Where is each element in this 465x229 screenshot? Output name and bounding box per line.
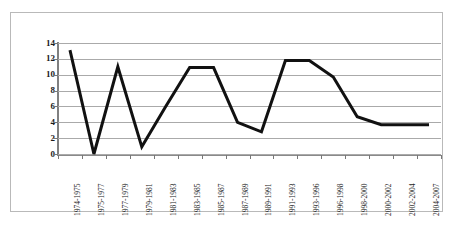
y-tick-label: 2 bbox=[33, 134, 55, 143]
x-tick-label: 1983-1985 bbox=[193, 184, 202, 217]
x-tick-label: 2002-2004 bbox=[408, 184, 417, 217]
x-tick-label: 1993-1996 bbox=[312, 184, 321, 217]
y-tick-label: 4 bbox=[33, 118, 55, 127]
x-tick-mark bbox=[250, 155, 251, 159]
x-axis-tick-labels: 1974-19751975-19771977-19791979-19811981… bbox=[58, 160, 441, 222]
x-tick-mark bbox=[226, 155, 227, 159]
y-tick-mark bbox=[53, 91, 58, 92]
x-tick-label: 1991-1993 bbox=[288, 184, 297, 217]
y-tick-mark bbox=[53, 138, 58, 139]
y-tick-label: 14 bbox=[33, 39, 55, 48]
x-tick-label: 1996-1998 bbox=[336, 184, 345, 217]
x-tick-label: 1975-1977 bbox=[97, 184, 106, 217]
x-tick-label: 2000-2002 bbox=[384, 184, 393, 217]
y-tick-label: 0 bbox=[33, 150, 55, 159]
y-tick-mark bbox=[53, 106, 58, 107]
plot-area bbox=[58, 43, 441, 154]
x-tick-mark bbox=[202, 155, 203, 159]
x-tick-label: 1974-1975 bbox=[73, 184, 82, 217]
y-tick-label: 12 bbox=[33, 54, 55, 63]
x-tick-mark bbox=[130, 155, 131, 159]
x-tick-mark bbox=[58, 155, 59, 159]
chart-figure: 02468101214 1974-19751975-19771977-19791… bbox=[0, 0, 465, 229]
x-tick-mark bbox=[441, 155, 442, 159]
x-tick-mark bbox=[417, 155, 418, 159]
chart-frame: 02468101214 1974-19751975-19771977-19791… bbox=[10, 12, 443, 212]
x-tick-label: 2004-2007 bbox=[432, 184, 441, 217]
x-tick-label: 1981-1983 bbox=[169, 184, 178, 217]
x-tick-label: 1977-1979 bbox=[121, 184, 130, 217]
series-1-polyline bbox=[70, 50, 429, 154]
y-axis-tick-labels: 02468101214 bbox=[27, 43, 55, 154]
x-tick-label: 1987-1989 bbox=[241, 184, 250, 217]
line-series bbox=[58, 43, 441, 154]
x-tick-mark bbox=[106, 155, 107, 159]
y-tick-mark bbox=[53, 75, 58, 76]
x-tick-mark bbox=[178, 155, 179, 159]
x-tick-mark bbox=[273, 155, 274, 159]
y-tick-mark bbox=[53, 122, 58, 123]
x-tick-mark bbox=[393, 155, 394, 159]
x-tick-mark bbox=[321, 155, 322, 159]
x-tick-mark bbox=[154, 155, 155, 159]
y-tick-label: 6 bbox=[33, 102, 55, 111]
y-tick-mark bbox=[53, 43, 58, 44]
x-tick-mark bbox=[82, 155, 83, 159]
x-tick-label: 1998-2000 bbox=[360, 184, 369, 217]
x-tick-mark bbox=[297, 155, 298, 159]
x-tick-label: 1979-1981 bbox=[145, 184, 154, 217]
x-tick-label: 1989-1991 bbox=[264, 184, 273, 217]
y-tick-label: 8 bbox=[33, 86, 55, 95]
x-tick-mark bbox=[345, 155, 346, 159]
y-tick-label: 10 bbox=[33, 70, 55, 79]
x-tick-label: 1985-1987 bbox=[217, 184, 226, 217]
x-tick-mark bbox=[369, 155, 370, 159]
y-tick-mark bbox=[53, 59, 58, 60]
